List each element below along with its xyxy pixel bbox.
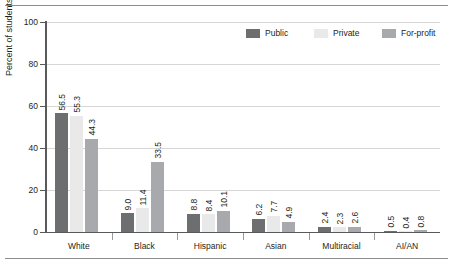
legend-item-private[interactable]: Private (314, 27, 359, 39)
x-tick-label-black: Black (112, 242, 178, 251)
bar-value-label: 7.7 (270, 201, 279, 213)
x-tick-label-hispanic: Hispanic (177, 242, 243, 251)
y-tick-label-100: 100 (8, 18, 38, 27)
legend-item-public[interactable]: Public (246, 27, 288, 39)
bar-value-label: 6.2 (255, 204, 264, 216)
bar-value-label: 0.4 (401, 216, 410, 228)
bar-value-label: 10.1 (219, 191, 228, 208)
bar-private-white (70, 116, 83, 232)
bar-private-asian (267, 216, 280, 232)
x-tick-label-multiracial: Multiracial (309, 242, 375, 251)
y-tick-label-0: 0 (8, 228, 38, 237)
bar-value-label: 0.5 (386, 216, 395, 228)
bar-value-label: 4.9 (285, 207, 294, 219)
bar-value-label: 8.4 (204, 200, 213, 212)
bar-forprofit-asian (282, 222, 295, 232)
bar-forprofit-black (151, 162, 164, 232)
legend-label-forprofit: For-profit (401, 29, 435, 38)
bar-value-label: 2.6 (351, 212, 360, 224)
bar-value-label: 56.5 (58, 94, 67, 111)
bar-value-label: 2.4 (321, 212, 330, 224)
legend-label-private: Private (333, 29, 359, 38)
bar-value-label: 55.3 (73, 96, 82, 113)
top-divider-rule (5, 5, 448, 6)
bar-public-asian (252, 219, 265, 232)
bar-forprofit-white (85, 139, 98, 232)
category-separator-tick (112, 233, 113, 240)
category-separator-tick (309, 233, 310, 240)
category-separator-tick (177, 233, 178, 240)
legend-label-public: Public (265, 29, 288, 38)
bar-public-hispanic (187, 214, 200, 232)
legend-item-forprofit[interactable]: For-profit (382, 27, 435, 39)
x-tick-label-aian: AI/AN (374, 242, 440, 251)
bar-value-label: 0.8 (416, 216, 425, 228)
bar-public-white (55, 113, 68, 232)
figure-bar-chart: Percent of students 100 80 60 40 20 0 56… (0, 0, 453, 271)
legend-swatch-private-icon (314, 29, 328, 38)
x-tick-label-asian: Asian (243, 242, 309, 251)
bar-value-label: 9.0 (124, 198, 133, 210)
bar-value-label: 44.3 (88, 119, 97, 136)
y-tick-label-80: 80 (8, 60, 38, 69)
bar-public-black (121, 213, 134, 232)
legend-swatch-public-icon (246, 29, 260, 38)
x-tick-label-white: White (46, 242, 112, 251)
y-tick-label-20: 20 (8, 186, 38, 195)
category-separator-tick (374, 233, 375, 240)
y-tick-label-60: 60 (8, 102, 38, 111)
y-tick-label-40: 40 (8, 144, 38, 153)
bar-value-label: 33.5 (154, 142, 163, 159)
bar-value-label: 11.4 (139, 189, 148, 205)
bar-forprofit-hispanic (217, 211, 230, 232)
category-separator-tick (243, 233, 244, 240)
plot-area: 56.555.344.39.011.433.58.88.410.16.27.74… (46, 22, 440, 232)
bar-private-black (136, 208, 149, 232)
y-axis-spine (45, 21, 47, 233)
bottom-divider-rule (5, 258, 448, 259)
legend-swatch-forprofit-icon (382, 29, 396, 38)
bar-value-label: 8.8 (189, 199, 198, 211)
bar-private-hispanic (202, 214, 215, 232)
bars-layer: 56.555.344.39.011.433.58.88.410.16.27.74… (46, 22, 440, 232)
bar-value-label: 2.3 (336, 212, 345, 224)
